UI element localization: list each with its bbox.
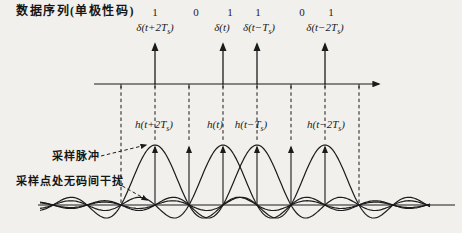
figure-nyquist-pulse-diagram: 数据序列(单极性码) 101101 δ(t+2Ts)δ(t)δ(t−Ts)δ(t…: [0, 0, 462, 233]
bit-value: 1: [255, 7, 261, 18]
sampling-pulse-annotation: 采样脉冲: [52, 151, 100, 162]
bit-value: 0: [299, 7, 305, 18]
bit-value: 1: [227, 7, 233, 18]
pulse-label: h(t−2Ts): [307, 119, 345, 130]
bit-value: 0: [193, 7, 199, 18]
figure-canvas: [0, 0, 462, 233]
delta-impulse-label: δ(t+2Ts): [136, 22, 173, 33]
bit-value: 1: [328, 7, 334, 18]
delta-impulse-label: δ(t): [214, 22, 230, 33]
bit-value: 1: [152, 7, 158, 18]
no-isi-annotation: 采样点处无码间干扰: [16, 176, 124, 187]
delta-impulse-label: δ(t−Ts): [243, 22, 275, 33]
pulse-label: h(t): [207, 119, 223, 130]
delta-impulse-label: δ(t−2Ts): [306, 22, 343, 33]
pulse-label: h(t−Ts): [235, 119, 267, 130]
data-sequence-title: 数据序列(单极性码): [16, 5, 135, 17]
pulse-label: h(t+2Ts): [135, 119, 173, 130]
sampling-pulse-leader-arrow: [101, 145, 146, 156]
